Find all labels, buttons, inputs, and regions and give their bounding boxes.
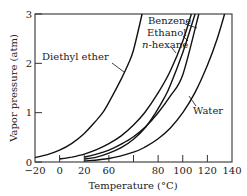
- x-tick-label: 100: [173, 165, 192, 176]
- label-n-hexane: n-hexane: [142, 39, 188, 50]
- x-tick-label: 80: [152, 165, 165, 176]
- label-ethanol: Ethanol: [147, 27, 186, 38]
- y-tick-label: 3: [26, 9, 32, 20]
- x-tick-label: 140: [222, 165, 241, 176]
- y-tick-label: 1: [26, 107, 32, 118]
- label-diethyl-ether: Diethyl ether: [42, 51, 109, 62]
- y-tick-label: 2: [26, 58, 32, 69]
- label-benzene: Benzene: [148, 15, 191, 26]
- x-tick-label: −20: [24, 165, 45, 176]
- x-tick-label: 60: [103, 165, 116, 176]
- x-axis: −200206080100120140: [24, 155, 241, 176]
- vapor-pressure-chart: 0123 −200206080100120140 Diethyl ethern-…: [0, 0, 247, 196]
- series-curves: [35, 14, 225, 161]
- x-tick-label: 20: [78, 165, 91, 176]
- x-axis-label: Temperature (°C): [88, 180, 177, 191]
- curve-diethyl-ether: [35, 14, 142, 158]
- series-labels: Diethyl ethern-hexaneEthanolBenzeneWater: [42, 15, 223, 116]
- x-tick-label: 0: [56, 165, 62, 176]
- y-axis-label: Vapor pressure (atm): [8, 34, 19, 143]
- x-tick-label: 120: [198, 165, 217, 176]
- y-axis: 0123: [26, 9, 42, 168]
- leader-line-diethyl-ether: [112, 63, 124, 72]
- label-water: Water: [193, 105, 223, 116]
